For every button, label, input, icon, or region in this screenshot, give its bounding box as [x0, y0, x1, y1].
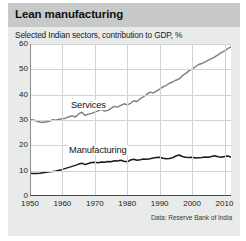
gridline-x-2000: [192, 44, 193, 196]
x-axis-labels: 1950196019701980199020002010: [30, 199, 231, 211]
x-tick-label-1960: 1960: [54, 199, 72, 208]
chart-card: Lean manufacturing Selected Indian secto…: [8, 3, 240, 236]
gridline-x-1960: [62, 44, 63, 196]
plot-region: Services Manufacturing: [30, 44, 231, 196]
chart-subtitle: Selected Indian sectors, contribution to…: [15, 30, 182, 40]
y-tick-label-30: 30: [19, 115, 28, 124]
gridline-y-40: [30, 95, 231, 96]
y-tick-label-40: 40: [19, 90, 28, 99]
y-axis-line: [30, 44, 31, 196]
y-tick-label-10: 10: [19, 166, 28, 175]
chart-figure: Lean manufacturing Selected Indian secto…: [0, 0, 246, 241]
series-label-manufacturing: Manufacturing: [68, 145, 128, 155]
plot-area: Services Manufacturing: [30, 44, 231, 196]
y-tick-label-50: 50: [19, 64, 28, 73]
x-tick-label-1950: 1950: [21, 199, 39, 208]
series-label-services: Services: [70, 100, 107, 110]
series-line-services: [30, 47, 231, 123]
x-tick-label-1980: 1980: [118, 199, 136, 208]
gridline-x-2010: [225, 44, 226, 196]
y-tick-label-20: 20: [19, 140, 28, 149]
gridline-x-1990: [160, 44, 161, 196]
y-axis-labels: 6050403020100: [8, 44, 28, 196]
x-tick-label-2000: 2000: [183, 199, 201, 208]
x-tick-label-1970: 1970: [86, 199, 104, 208]
chart-title: Lean manufacturing: [15, 8, 123, 20]
gridline-y-30: [30, 120, 231, 121]
gridline-y-20: [30, 145, 231, 146]
gridline-x-1970: [95, 44, 96, 196]
gridline-y-10: [30, 171, 231, 172]
y-tick-label-60: 60: [19, 39, 28, 48]
gridline-y-60: [30, 44, 231, 45]
x-tick-label-2010: 2010: [216, 199, 234, 208]
gridline-y-50: [30, 69, 231, 70]
x-tick-label-1990: 1990: [151, 199, 169, 208]
x-axis-line: [30, 195, 231, 196]
gridline-x-1980: [127, 44, 128, 196]
source-note: Data: Reserve Bank of India: [151, 214, 232, 221]
